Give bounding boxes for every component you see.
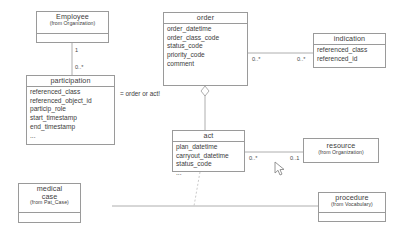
attribute: order_datetime bbox=[167, 25, 247, 34]
multiplicity-employee-end: 1 bbox=[75, 47, 78, 53]
mouse-cursor-icon bbox=[274, 161, 286, 177]
attribute: particip_role bbox=[30, 105, 114, 114]
aggregation-diamond bbox=[201, 86, 209, 96]
attribute: order_class_code bbox=[167, 34, 247, 43]
attribute: carryout_datetime bbox=[176, 152, 244, 161]
attribute: referenced_class bbox=[30, 88, 114, 97]
diagram-note: = order or act! bbox=[120, 90, 160, 97]
class-stereotype-procedure: (from Vocabulary) bbox=[321, 202, 383, 207]
attribute: status_code bbox=[176, 160, 244, 169]
attribute: referenced_class bbox=[317, 46, 385, 55]
class-stereotype-resource: (from Organization) bbox=[306, 150, 376, 155]
class-operations-medical-case bbox=[19, 213, 80, 222]
class-operations-procedure bbox=[319, 213, 385, 222]
attribute: end_timestamp bbox=[30, 123, 114, 132]
multiplicity-indication-to-order: 0..* bbox=[297, 56, 305, 62]
uml-diagram-canvas: Employee (from Organization) participati… bbox=[0, 0, 394, 232]
class-header-medical-case: medical case (from Pat_Case) bbox=[19, 184, 80, 213]
class-header-act: act bbox=[173, 131, 244, 142]
class-header-indication: indication bbox=[314, 34, 385, 45]
class-box-act[interactable]: act plan_datetime carryout_datetime stat… bbox=[172, 130, 245, 172]
class-name-act: act bbox=[175, 132, 242, 140]
class-name-indication: indication bbox=[316, 35, 383, 43]
class-attributes-participation: referenced_class referenced_object_id pa… bbox=[27, 87, 114, 141]
class-box-procedure[interactable]: procedure (from Vocabulary) bbox=[318, 192, 386, 222]
class-header-order: order bbox=[164, 13, 247, 24]
attribute: ... bbox=[30, 132, 114, 141]
class-name-participation: participation bbox=[29, 77, 112, 85]
class-operations-employee bbox=[37, 34, 108, 43]
class-box-employee[interactable]: Employee (from Organization) bbox=[36, 11, 109, 43]
multiplicity-order-to-indication: 0..* bbox=[252, 56, 260, 62]
attribute: referenced_id bbox=[317, 55, 385, 64]
multiplicity-act-to-resource: 0..* bbox=[249, 155, 257, 161]
class-name-order: order bbox=[166, 14, 245, 22]
class-box-indication[interactable]: indication referenced_class referenced_i… bbox=[313, 33, 386, 68]
class-stereotype-employee: (from Organization) bbox=[39, 21, 106, 26]
attribute: status_code bbox=[167, 42, 247, 51]
class-box-medical-case[interactable]: medical case (from Pat_Case) bbox=[18, 183, 81, 223]
attribute: comment bbox=[167, 60, 247, 69]
class-header-procedure: procedure (from Vocabulary) bbox=[319, 193, 385, 213]
class-attributes-order: order_datetime order_class_code status_c… bbox=[164, 24, 247, 70]
class-attributes-indication: referenced_class referenced_id bbox=[314, 45, 385, 64]
class-box-resource[interactable]: resource (from Organization) bbox=[303, 138, 379, 163]
multiplicity-resource-to-act: 0..1 bbox=[290, 155, 299, 161]
class-header-participation: participation bbox=[27, 76, 114, 87]
class-box-order[interactable]: order order_datetime order_class_code st… bbox=[163, 12, 248, 86]
multiplicity-participation-end: 0..* bbox=[75, 64, 83, 70]
attribute: plan_datetime bbox=[176, 143, 244, 152]
attribute: referenced_object_id bbox=[30, 97, 114, 106]
class-header-employee: Employee (from Organization) bbox=[37, 12, 108, 34]
class-attributes-act: plan_datetime carryout_datetime status_c… bbox=[173, 142, 244, 179]
class-box-participation[interactable]: participation referenced_class reference… bbox=[26, 75, 115, 145]
attribute: priority_code bbox=[167, 51, 247, 60]
class-stereotype-medical-case: (from Pat_Case) bbox=[21, 200, 78, 205]
attribute: ... bbox=[176, 169, 244, 178]
attribute: start_timestamp bbox=[30, 114, 114, 123]
class-header-resource: resource (from Organization) bbox=[304, 139, 378, 162]
